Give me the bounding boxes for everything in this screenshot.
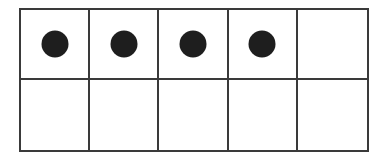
counter-dot-icon: [110, 31, 137, 58]
ten-frame-cell: [21, 10, 90, 80]
ten-frame-cell: [159, 80, 228, 150]
ten-frame: [19, 8, 369, 152]
ten-frame-cell: [159, 10, 228, 80]
ten-frame-cell: [21, 80, 90, 150]
counter-dot-icon: [179, 31, 206, 58]
ten-frame-cell: [229, 10, 298, 80]
ten-frame-cell: [90, 80, 159, 150]
ten-frame-cell: [298, 10, 367, 80]
counter-dot-icon: [41, 31, 68, 58]
ten-frame-cell: [90, 10, 159, 80]
ten-frame-cell: [229, 80, 298, 150]
ten-frame-cell: [298, 80, 367, 150]
counter-dot-icon: [249, 31, 276, 58]
